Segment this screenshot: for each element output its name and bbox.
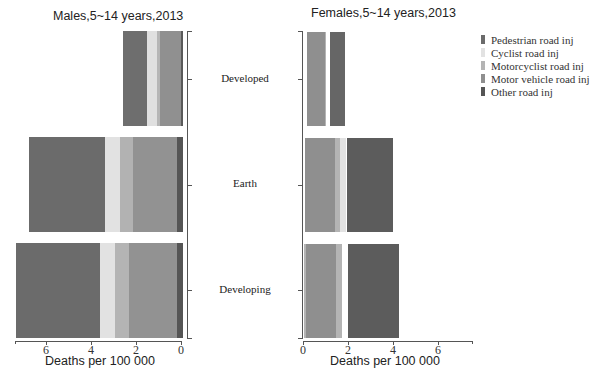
males-bar-developed xyxy=(123,31,183,126)
females-x-tick xyxy=(472,341,473,344)
females-y-tick xyxy=(298,31,303,32)
seg-pedestrian xyxy=(123,31,147,126)
seg-cyclist xyxy=(147,31,157,126)
category-label-earth: Earth xyxy=(233,177,257,189)
seg-other xyxy=(177,137,183,232)
legend-label: Pedestrian road inj xyxy=(491,34,573,46)
seg-other xyxy=(347,138,393,232)
females-x-axis xyxy=(303,341,473,342)
males-bar-developing xyxy=(16,243,183,338)
seg-motor-vehicle xyxy=(129,243,177,338)
females-bar-earth xyxy=(305,138,393,232)
legend-item-pedestrian: Pedestrian road inj xyxy=(481,33,590,46)
legend-swatch-icon xyxy=(481,48,485,57)
seg-other xyxy=(330,32,345,126)
legend-item-cyclist: Cyclist road inj xyxy=(481,46,590,59)
females-y-tick xyxy=(298,185,303,186)
seg-motorcyclist xyxy=(120,137,133,232)
females-bar-developing xyxy=(304,244,399,338)
seg-other xyxy=(348,244,399,338)
legend-label: Motorcyclist road inj xyxy=(491,60,584,72)
legend-item-motor-vehicle: Motor vehicle road inj xyxy=(481,72,590,85)
seg-motor-vehicle xyxy=(133,137,177,232)
legend-label: Cyclist road inj xyxy=(491,47,559,59)
seg-other xyxy=(181,31,183,126)
seg-cyclist xyxy=(105,137,120,232)
males-y-tick xyxy=(187,185,192,186)
seg-motor-vehicle xyxy=(305,138,335,232)
females-bar-developed xyxy=(307,32,345,126)
males-bar-earth xyxy=(29,137,183,232)
legend-label: Motor vehicle road inj xyxy=(491,73,590,85)
seg-pedestrian xyxy=(29,137,105,232)
females-y-tick xyxy=(298,290,303,291)
females-y-tick xyxy=(298,79,303,80)
seg-pedestrian xyxy=(16,243,100,338)
females-x-axis-label: Deaths per 100 000 xyxy=(330,354,440,368)
seg-motorcyclist xyxy=(115,243,129,338)
males-x-axis-label: Deaths per 100 000 xyxy=(45,354,155,368)
seg-other xyxy=(177,243,183,338)
females-x-tick-label: 0 xyxy=(300,343,306,358)
legend-label: Other road inj xyxy=(491,86,553,98)
legend-item-other: Other road inj xyxy=(481,85,590,98)
seg-cyclist xyxy=(100,243,115,338)
legend-swatch-icon xyxy=(481,35,485,44)
seg-motor-vehicle xyxy=(160,31,181,126)
males-x-tick-label: 0 xyxy=(178,343,184,358)
category-label-developed: Developed xyxy=(221,72,269,84)
males-y-tick xyxy=(187,79,192,80)
legend-swatch-icon xyxy=(481,87,485,96)
males-y-tick xyxy=(187,290,192,291)
females-y-tick xyxy=(298,338,303,339)
category-label-developing: Developing xyxy=(219,283,270,295)
males-x-axis xyxy=(15,341,182,342)
seg-motor-vehicle xyxy=(306,244,336,338)
legend-item-motorcyclist: Motorcyclist road inj xyxy=(481,59,590,72)
males-chart-title: Males,5~14 years,2013 xyxy=(53,9,183,23)
males-y-tick xyxy=(187,338,192,339)
males-x-tick xyxy=(15,341,16,344)
legend: Pedestrian road inj Cyclist road inj Mot… xyxy=(481,33,590,98)
legend-swatch-icon xyxy=(481,74,485,83)
females-chart-title: Females,5~14 years,2013 xyxy=(311,6,456,20)
seg-motor-vehicle xyxy=(307,32,325,126)
legend-swatch-icon xyxy=(481,61,485,70)
males-y-tick xyxy=(187,31,192,32)
